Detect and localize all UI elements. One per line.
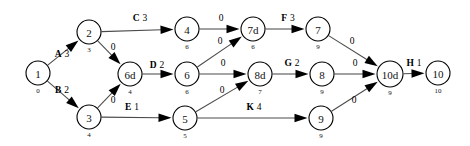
edge-label-e-6-8d: 0 [221, 58, 226, 68]
node-earliest-time: 5 [183, 132, 187, 140]
node-3[interactable]: 34 [77, 105, 101, 139]
edge-label-e-8-10d: 0 [353, 58, 358, 68]
edge-line [101, 117, 160, 118]
node-6d[interactable]: 6d4 [118, 62, 142, 96]
node-label: 7 [315, 24, 321, 36]
node-earliest-time: 6 [185, 43, 189, 51]
edge-e-k [198, 114, 308, 123]
edge-label-e-6-7d: 0 [218, 36, 223, 46]
node-earliest-time: 9 [316, 43, 320, 51]
edge-e-6-8d [200, 70, 247, 79]
node-7[interactable]: 79 [306, 17, 330, 51]
arrowhead-icon [158, 113, 171, 121]
node-4[interactable]: 46 [175, 17, 199, 51]
node-earliest-time: 4 [128, 88, 132, 96]
node-earliest-time: 3 [87, 46, 91, 54]
edge-label-e-7-10d: 0 [350, 36, 355, 46]
arrowhead-icon [227, 25, 240, 34]
node-earliest-time: 9 [320, 88, 324, 96]
node-label: 7d [248, 24, 260, 36]
edge-line [196, 87, 239, 112]
node-label: 10 [433, 68, 445, 80]
node-earliest-time: 7 [258, 88, 262, 96]
node-earliest-time: 9 [388, 89, 392, 97]
arrowhead-icon [295, 114, 308, 123]
edges-layer [47, 25, 424, 123]
edge-e-h [403, 69, 424, 77]
node-label: 1 [35, 68, 41, 80]
node-earliest-time: 10 [435, 87, 443, 95]
arrowhead-icon [66, 96, 79, 108]
node-2[interactable]: 23 [77, 20, 101, 54]
edge-e-d [143, 70, 174, 79]
node-earliest-time: 6 [185, 88, 189, 96]
node-earliest-time: 6 [251, 43, 255, 51]
node-label: 3 [86, 112, 92, 124]
arrowhead-icon [411, 69, 424, 77]
node-8d[interactable]: 8d7 [248, 62, 272, 96]
edge-e-3-6d [98, 84, 121, 108]
node-label: 10d [382, 69, 399, 81]
node-label: 8d [255, 69, 267, 81]
node-8[interactable]: 89 [310, 62, 334, 96]
edge-e-c [101, 26, 173, 34]
arrowhead-icon [363, 70, 376, 79]
arrowhead-icon [235, 81, 248, 91]
edge-line [332, 88, 369, 111]
edge-label-e-5-8d: 0 [220, 85, 225, 95]
node-5[interactable]: 55 [173, 106, 197, 140]
arrowhead-icon [365, 82, 378, 93]
node-label: 8 [319, 69, 325, 81]
edge-e-4-7d [200, 25, 240, 34]
edge-label-e-g: G2 [284, 58, 299, 68]
edge-e-2-6d [98, 41, 121, 64]
node-1[interactable]: 10 [26, 61, 50, 95]
node-7d[interactable]: 7d6 [241, 17, 265, 51]
edge-label-e-3-6d: 0 [111, 95, 116, 105]
arrowhead-icon [296, 70, 309, 79]
network-diagram-canvas: 1023346d44666557d68d779899910d91010 A3B2… [0, 0, 470, 146]
node-label: 5 [182, 113, 188, 125]
edge-e-b [47, 81, 78, 108]
node-label: 2 [86, 27, 92, 39]
arrowhead-icon [160, 26, 173, 34]
edge-label-e-e: E1 [125, 102, 139, 112]
edge-label-e-c: C3 [133, 13, 148, 23]
node-label: 6 [184, 69, 190, 81]
edge-line [329, 36, 368, 61]
node-earliest-time: 9 [319, 132, 323, 140]
edge-line [101, 30, 162, 32]
arrowhead-icon [292, 25, 305, 34]
node-label: 4 [184, 24, 190, 36]
nodes-layer: 1023346d44666557d68d779899910d91010 [26, 17, 450, 140]
edge-label-e-f: F3 [281, 13, 295, 23]
edge-e-f [266, 25, 305, 34]
edge-label-e-k: K4 [246, 102, 261, 112]
edge-label-e-h: H1 [406, 58, 421, 68]
arrowhead-icon [234, 70, 247, 79]
node-label: 6d [125, 69, 137, 81]
edge-label-e-2-6d: 0 [111, 42, 116, 52]
arrowhead-icon [364, 56, 377, 66]
edge-e-g [273, 70, 309, 79]
edge-e-8-10d [335, 70, 376, 79]
node-6[interactable]: 66 [175, 62, 199, 96]
edge-e-a [48, 40, 79, 65]
edge-label-e-9-10d: 0 [352, 95, 357, 105]
edge-label-e-4-7d: 0 [219, 13, 224, 23]
node-earliest-time: 4 [87, 131, 91, 139]
activity-network-svg: 1023346d44666557d68d779899910d91010 A3B2… [0, 0, 470, 146]
node-earliest-time: 0 [36, 87, 40, 95]
edge-line [197, 43, 232, 67]
edge-label-e-d: D2 [150, 60, 165, 70]
arrowhead-icon [161, 70, 174, 79]
edge-e-e [101, 113, 171, 121]
node-9[interactable]: 99 [309, 106, 333, 140]
node-label: 9 [318, 113, 324, 125]
arrowhead-icon [229, 37, 242, 48]
node-10[interactable]: 1010 [426, 61, 450, 95]
node-10d[interactable]: 10d9 [377, 61, 403, 97]
